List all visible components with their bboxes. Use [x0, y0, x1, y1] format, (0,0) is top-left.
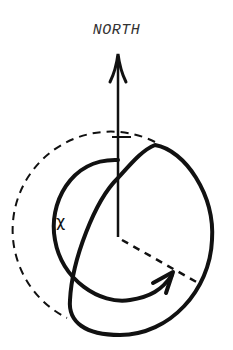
orbit-diagram — [0, 0, 233, 350]
tilted-orbit-loop — [70, 145, 212, 335]
angle-label: χ — [56, 212, 65, 231]
